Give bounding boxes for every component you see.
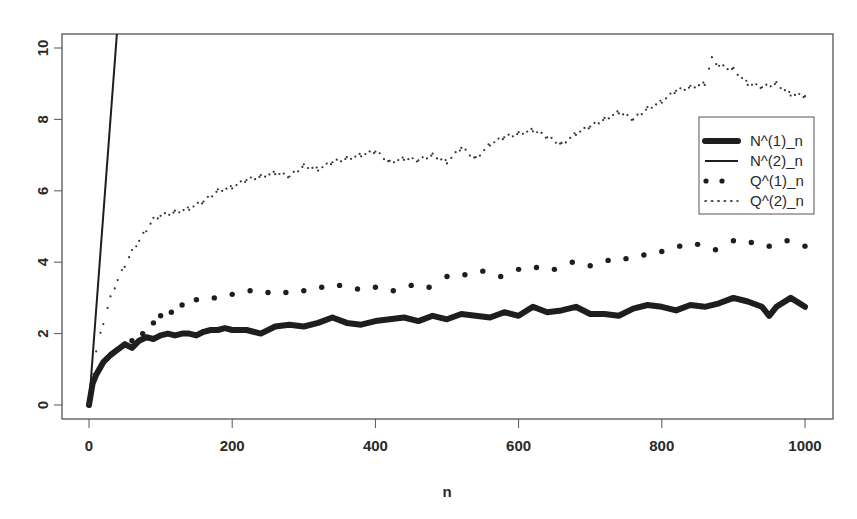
data-point (114, 287, 116, 289)
data-point (88, 402, 90, 404)
data-point (526, 130, 528, 132)
data-point (426, 157, 428, 159)
data-point (301, 288, 306, 293)
data-point (555, 142, 557, 144)
data-point (331, 161, 333, 163)
data-point (430, 155, 432, 157)
data-point (502, 138, 504, 140)
data-point (775, 81, 777, 83)
data-point (316, 166, 318, 168)
series-q-1-n (86, 238, 807, 408)
data-point (283, 290, 288, 295)
data-point (247, 288, 252, 293)
data-point (240, 180, 242, 182)
series-n-1-n (89, 298, 805, 405)
data-point (336, 159, 338, 161)
data-point (774, 83, 776, 85)
data-point (536, 131, 538, 133)
data-point (702, 81, 704, 83)
data-point (718, 65, 720, 67)
y-tick-label: 0 (34, 401, 51, 409)
data-point (145, 230, 147, 232)
data-point (340, 160, 342, 162)
series-q-2-n (88, 56, 806, 404)
data-point (755, 83, 757, 85)
data-point (722, 64, 724, 66)
data-point (260, 174, 262, 176)
data-point (641, 252, 646, 257)
data-point (235, 184, 237, 186)
data-point (379, 152, 381, 154)
data-point (688, 87, 690, 89)
data-point (512, 135, 514, 137)
legend-label: Q^(1)_n (750, 172, 804, 189)
data-point (128, 256, 130, 258)
data-point (301, 166, 303, 168)
data-point (532, 130, 534, 132)
legend-label: Q^(2)_n (750, 192, 804, 209)
data-point (489, 144, 491, 146)
data-point (212, 295, 217, 300)
data-point (794, 94, 796, 96)
data-point (479, 154, 481, 156)
data-point (160, 215, 162, 217)
data-point (788, 91, 790, 93)
data-point (225, 188, 227, 190)
data-point (354, 155, 356, 157)
data-point (655, 103, 657, 105)
data-point (674, 92, 676, 94)
data-point (698, 84, 700, 86)
data-point (403, 159, 405, 161)
data-point (288, 175, 290, 177)
data-point (684, 89, 686, 91)
data-point (389, 160, 391, 162)
data-point (157, 217, 159, 219)
data-point (231, 187, 233, 189)
data-point (268, 173, 270, 175)
data-point (317, 169, 319, 171)
data-point (550, 137, 552, 139)
data-point (711, 56, 713, 58)
data-point (393, 161, 395, 163)
data-point (623, 256, 628, 261)
x-tick-label: 0 (85, 437, 93, 454)
data-point (188, 209, 190, 211)
data-point (417, 159, 419, 161)
data-point (192, 205, 194, 207)
data-point (465, 149, 467, 151)
data-point (570, 260, 575, 265)
data-point (675, 90, 677, 92)
data-point (651, 107, 653, 109)
data-point (201, 202, 203, 204)
data-point (790, 95, 792, 97)
data-point (121, 269, 123, 271)
x-tick-label: 600 (506, 437, 531, 454)
data-point (679, 87, 681, 89)
data-point (211, 195, 213, 197)
x-tick-label: 200 (220, 437, 245, 454)
data-point (321, 166, 323, 168)
data-point (383, 158, 385, 160)
data-point (95, 350, 97, 352)
data-point (498, 274, 503, 279)
data-point (579, 130, 581, 132)
data-point (330, 163, 332, 165)
data-point (727, 68, 729, 70)
data-point (598, 122, 600, 124)
data-point (432, 153, 434, 155)
data-point (409, 283, 414, 288)
data-point (493, 141, 495, 143)
data-point (426, 284, 431, 289)
data-point (397, 159, 399, 161)
y-tick-label: 6 (34, 187, 51, 195)
data-point (164, 212, 166, 214)
data-point (129, 338, 134, 343)
data-point (565, 141, 567, 143)
data-point (326, 162, 328, 164)
data-point (732, 67, 734, 69)
data-point (770, 85, 772, 87)
data-point (158, 313, 163, 318)
data-point (459, 149, 461, 151)
data-point (107, 307, 109, 309)
x-tick-label: 800 (649, 437, 674, 454)
